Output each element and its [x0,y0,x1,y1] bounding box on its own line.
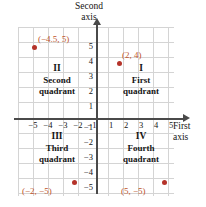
plot-point-marker [32,45,37,50]
plot-point-marker [117,61,122,66]
quadrant-name-line1: Fourth [104,143,178,155]
plot-point-label: (−4.5, 5) [38,34,69,44]
quadrant-name-line2: quadrant [20,86,94,98]
quadrant-name-line1: Second [20,75,94,87]
x-tick-label: −5 [26,120,40,130]
coordinate-plane-figure: Second axis First axis −5 −4 −3 −2 −1 1 … [0,0,206,207]
x-tick-label: −4 [41,120,55,130]
quadrant-name-line2: quadrant [104,154,178,166]
quadrant-label-first: I First quadrant [104,63,178,98]
gridline-vertical [18,27,19,196]
gridline-vertical [48,27,49,196]
quadrant-roman: I [104,63,178,75]
y-axis-title-line1: Second [75,1,103,11]
quadrant-roman: IV [104,131,178,143]
gridline-vertical [153,27,154,196]
y-tick-label: 5 [82,41,93,51]
x-tick-label: 5 [164,120,178,130]
y-axis-title-line2: axis [81,12,96,22]
plot-point-label: (5, −5) [121,186,146,196]
quadrant-roman: III [20,131,94,143]
quadrant-label-fourth: IV Fourth quadrant [104,131,178,166]
x-tick-label: −3 [56,120,70,130]
quadrant-name-line1: Third [20,143,94,155]
plot-point-marker [72,180,77,185]
y-axis-line [96,22,98,194]
gridline-vertical [63,27,64,196]
quadrant-name-line2: quadrant [104,86,178,98]
quadrant-name-line1: First [104,75,178,87]
x-tick-label: 4 [149,120,163,130]
quadrant-roman: II [20,63,94,75]
quadrant-label-second: II Second quadrant [20,63,94,98]
y-tick-label: −4 [82,167,93,177]
quadrant-label-third: III Third quadrant [20,131,94,166]
x-tick-label: 1 [104,120,118,130]
x-tick-label: 3 [134,120,148,130]
y-tick-label: −5 [82,182,93,192]
gridline-vertical [168,27,169,196]
gridline-vertical [78,27,79,196]
x-tick-label: 2 [119,120,133,130]
plot-point-marker [162,180,167,185]
y-axis-title: Second axis [58,1,120,22]
plot-point-label: (−2, −5) [22,186,52,196]
y-tick-label: 1 [82,101,93,111]
gridline-vertical [108,27,109,196]
quadrant-name-line2: quadrant [20,154,94,166]
plot-point-label: (2, 4) [122,50,142,60]
gridline-vertical [33,27,34,196]
